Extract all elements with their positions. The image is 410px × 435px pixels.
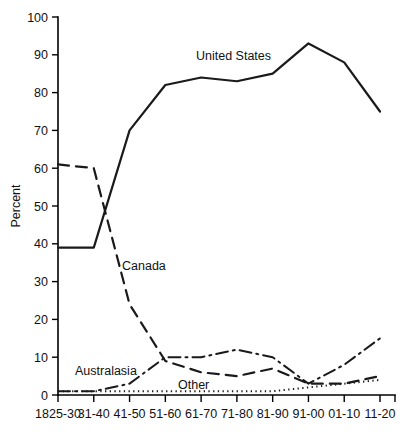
x-axis-ticks: 1825-3031-4041-5051-6061-7071-8081-9091-… xyxy=(35,395,396,421)
x-tick-label: 11-20 xyxy=(364,407,395,421)
y-axis-ticks: 0102030405060708090100 xyxy=(27,11,58,403)
y-tick-label: 0 xyxy=(41,389,48,403)
x-tick-label: 31-40 xyxy=(78,407,110,421)
y-tick-label: 30 xyxy=(34,275,48,289)
x-tick-label: 91-00 xyxy=(292,407,324,421)
y-tick-label: 50 xyxy=(34,200,48,214)
series-label-canada: Canada xyxy=(122,259,166,273)
y-tick-label: 100 xyxy=(27,11,48,25)
x-tick-label: 01-10 xyxy=(328,407,360,421)
y-tick-label: 20 xyxy=(34,313,48,327)
series-label-united-states: United States xyxy=(196,49,271,63)
chart-figure: 0102030405060708090100 Percent 1825-3031… xyxy=(0,0,410,435)
y-axis: 0102030405060708090100 Percent xyxy=(9,11,58,403)
series-label-australasia: Australasia xyxy=(75,364,137,378)
x-tick-label: 41-50 xyxy=(114,407,146,421)
y-tick-label: 10 xyxy=(34,351,48,365)
series-annotations: United StatesCanadaAustralasiaOther xyxy=(75,49,271,392)
series-layer xyxy=(58,43,380,391)
y-tick-label: 40 xyxy=(34,237,48,251)
y-tick-label: 60 xyxy=(34,162,48,176)
series-label-other: Other xyxy=(178,378,209,392)
y-tick-label: 80 xyxy=(34,86,48,100)
y-axis-title: Percent xyxy=(9,184,23,228)
y-tick-label: 90 xyxy=(34,48,48,62)
series-line-united-states xyxy=(58,43,380,247)
x-tick-label: 51-60 xyxy=(149,407,181,421)
x-tick-label: 71-80 xyxy=(221,407,253,421)
x-tick-label: 81-90 xyxy=(257,407,289,421)
x-axis: 1825-3031-4041-5051-6061-7071-8081-9091-… xyxy=(35,395,396,421)
line-chart-canvas: 0102030405060708090100 Percent 1825-3031… xyxy=(0,0,410,435)
x-tick-label: 61-70 xyxy=(185,407,217,421)
y-tick-label: 70 xyxy=(34,124,48,138)
x-tick-label: 1825-30 xyxy=(35,407,81,421)
series-line-canada xyxy=(58,164,380,383)
